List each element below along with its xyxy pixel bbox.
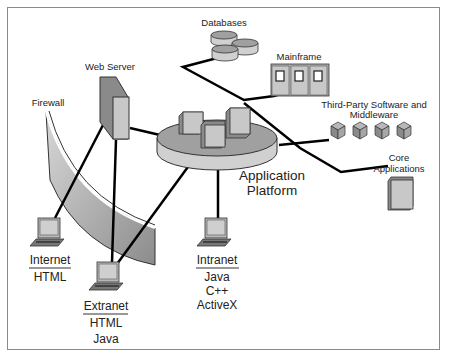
extranet-title: Extranet	[84, 299, 129, 313]
firewall-label: Firewall	[32, 97, 65, 108]
application-platform-icon	[157, 108, 277, 170]
core-applications-icon	[388, 177, 413, 210]
internet-tech-0: HTML	[34, 270, 67, 284]
extranet-tech-1: Java	[93, 332, 119, 346]
mainframe-label: Mainframe	[277, 51, 322, 62]
intranet-tech-1: C++	[206, 284, 229, 298]
mainframe-icon	[271, 64, 329, 96]
databases-label: Databases	[201, 17, 247, 28]
core-apps-label-line2: Applications	[373, 163, 424, 174]
intranet-tech-0: Java	[204, 270, 230, 284]
firewall-icon	[46, 111, 155, 265]
web-server-label: Web Server	[85, 61, 135, 72]
third-party-software-icon	[331, 122, 411, 139]
intranet-title: Intranet	[197, 253, 238, 267]
application-platform-label-line1: Application	[239, 168, 305, 183]
databases-icon	[211, 31, 258, 61]
core-apps-label-line1: Core	[389, 152, 410, 163]
architecture-diagram: Databases Mainframe Third-Party Software…	[0, 0, 449, 359]
internet-title: Internet	[30, 253, 71, 267]
intranet-computer-icon	[197, 218, 231, 246]
third-party-label-line2: Middleware	[350, 109, 399, 120]
web-server-icon	[100, 77, 129, 139]
application-platform-label-line2: Platform	[247, 183, 297, 198]
internet-computer-icon	[30, 218, 64, 246]
intranet-tech-2: ActiveX	[197, 298, 238, 312]
extranet-tech-0: HTML	[90, 316, 123, 330]
extranet-computer-icon	[89, 262, 123, 290]
